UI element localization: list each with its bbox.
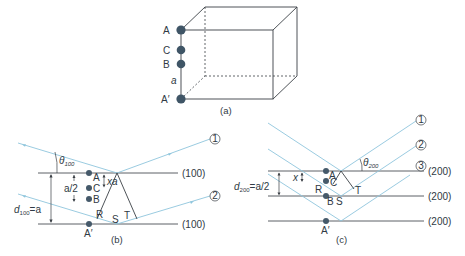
caption-c: (c)	[336, 234, 347, 245]
plane-label-200-1: (200)	[428, 166, 451, 177]
atom-a-prime	[176, 94, 185, 103]
d200-label: d200=a/2	[234, 181, 270, 193]
c-label-b: B	[327, 196, 334, 207]
b-point-r: R	[96, 209, 103, 220]
b-label-a: A	[93, 172, 100, 183]
c-x-label: x	[292, 172, 299, 183]
atom-a	[176, 25, 185, 34]
b-label-c: C	[93, 183, 100, 194]
ray-2-label: 2	[212, 190, 218, 201]
c-ray-3-label: 3	[418, 160, 424, 171]
panel-a-cube: A C B a A′ (a)	[161, 7, 297, 116]
diffraction-figure: A C B a A′ (a) (100) (100) 1 2 θ100	[0, 0, 465, 256]
c-point-r: R	[315, 184, 322, 195]
c-label-c: C	[330, 177, 337, 188]
c-point-t: T	[355, 185, 361, 196]
panel-c: (200) (200) (200) 1 2 3 θ200 A C B A′	[234, 114, 451, 245]
c-point-s: S	[336, 196, 343, 207]
b-half-label: a/2	[64, 183, 78, 194]
b-point-s: S	[112, 214, 119, 225]
c-label-a-prime: A′	[321, 225, 330, 236]
caption-b: (b)	[111, 234, 123, 245]
c-ray-2-label: 2	[418, 139, 424, 150]
plane-label-100-bottom: (100)	[182, 219, 205, 230]
caption-a: (a)	[220, 105, 232, 116]
c-ray-1-label: 1	[418, 114, 424, 125]
plane-label-100-top: (100)	[182, 168, 205, 179]
ray-1-label: 1	[212, 133, 218, 144]
label-a: A	[163, 25, 170, 36]
d100-label: d100=a	[14, 204, 41, 216]
b-label-b: B	[93, 194, 100, 205]
plane-label-200-3: (200)	[428, 216, 451, 227]
plane-label-200-2: (200)	[428, 191, 451, 202]
b-xa-label: xa	[106, 176, 118, 187]
atom-c	[177, 46, 186, 55]
theta-100: θ100	[59, 155, 75, 167]
panel-b: (100) (100) 1 2 θ100 A C B A′ R S	[14, 133, 220, 245]
label-a-prime: A′	[161, 94, 170, 105]
b-label-a-prime: A′	[84, 228, 93, 239]
label-c: C	[163, 45, 170, 56]
theta-200: θ200	[363, 157, 379, 169]
atom-b	[177, 60, 186, 69]
label-b: B	[163, 59, 170, 70]
edge-label-a: a	[171, 75, 177, 86]
b-point-t: T	[124, 210, 130, 221]
